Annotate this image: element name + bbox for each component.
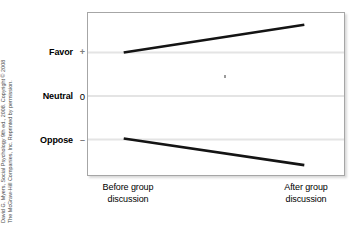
gridlines <box>88 53 344 140</box>
x-tick-after-line-2: discussion <box>250 194 362 206</box>
y-tick-oppose-sign: – <box>79 135 86 145</box>
x-tick-before-line-2: discussion <box>72 194 184 206</box>
y-tick-favor: Favor + <box>49 46 86 58</box>
y-tick-oppose: Oppose – <box>40 134 86 146</box>
series-line-oppose <box>124 138 305 165</box>
y-tick-favor-sign: + <box>79 47 86 57</box>
y-tick-neutral-label: Neutral <box>43 91 73 101</box>
stray-print-mark <box>224 75 226 78</box>
x-tick-after-group-discussion: After group discussion <box>250 182 362 205</box>
x-tick-after-line-1: After group <box>250 182 362 194</box>
x-tick-before-line-1: Before group <box>72 182 184 194</box>
plot-svg <box>88 13 344 175</box>
y-tick-favor-label: Favor <box>49 47 73 57</box>
attitude-polarization-chart: Favor + Neutral 0 Oppose – Bef <box>0 0 364 225</box>
y-tick-neutral: Neutral 0 <box>43 90 86 102</box>
series-line-favor <box>124 25 305 53</box>
plot-area <box>87 12 345 176</box>
y-tick-oppose-label: Oppose <box>40 135 73 145</box>
x-tick-before-group-discussion: Before group discussion <box>72 182 184 205</box>
y-tick-neutral-sign: 0 <box>79 91 86 102</box>
